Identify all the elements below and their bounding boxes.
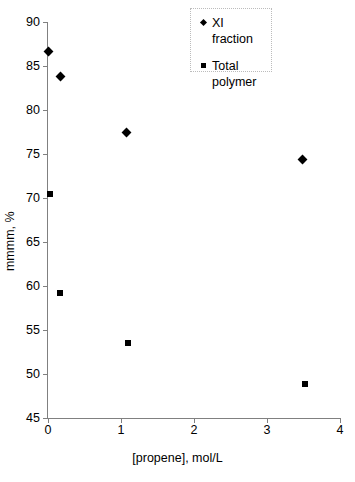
y-axis-tick-label: 85 — [26, 60, 40, 73]
data-point — [47, 191, 53, 197]
x-axis-title: [propene], mol/L — [0, 452, 355, 465]
y-axis-tick-label: 55 — [26, 324, 40, 337]
x-axis-tick-label: 0 — [45, 424, 52, 437]
y-axis-tick — [43, 330, 48, 331]
y-axis-tick-label: 45 — [26, 412, 40, 425]
y-axis-tick-label: 70 — [26, 192, 40, 205]
y-axis-tick — [43, 66, 48, 67]
plot-area: 45505560657075808590 01234 — [48, 22, 340, 418]
y-axis-tick-label: 50 — [26, 368, 40, 381]
y-axis-line — [47, 22, 48, 419]
y-axis-tick — [43, 286, 48, 287]
data-point — [122, 128, 132, 138]
y-axis-tick — [43, 22, 48, 23]
data-point — [125, 340, 131, 346]
x-axis-tick-label: 3 — [264, 424, 271, 437]
y-axis-title: mmmm, % — [2, 0, 18, 482]
x-axis-tick-label: 1 — [118, 424, 125, 437]
legend-entry: Total polymer — [197, 59, 267, 90]
y-axis-tick — [43, 242, 48, 243]
y-axis-tick-label: 80 — [26, 104, 40, 117]
x-axis-tick-label: 4 — [337, 424, 344, 437]
data-point — [43, 47, 53, 57]
diamond-marker-icon — [197, 20, 209, 25]
data-point — [55, 72, 65, 82]
scatter-chart: mmmm, % 45505560657075808590 01234 [prop… — [0, 0, 355, 482]
y-axis-tick — [43, 154, 48, 155]
y-axis-tick-label: 60 — [26, 280, 40, 293]
square-marker-icon — [197, 63, 209, 68]
legend-entry: XI fraction — [197, 16, 267, 47]
y-axis-title-text: mmmm, % — [4, 211, 17, 271]
y-axis-tick — [43, 198, 48, 199]
chart-legend: XI fractionTotal polymer — [190, 8, 272, 72]
legend-label: Total polymer — [209, 59, 267, 90]
data-point — [57, 290, 63, 296]
legend-label: XI fraction — [209, 16, 267, 47]
y-axis-tick — [43, 374, 48, 375]
data-point — [302, 381, 308, 387]
y-axis-tick-label: 90 — [26, 16, 40, 29]
y-axis-tick — [43, 110, 48, 111]
data-point — [298, 154, 308, 164]
x-axis-tick-label: 2 — [191, 424, 198, 437]
y-axis-tick-label: 75 — [26, 148, 40, 161]
y-axis-tick-label: 65 — [26, 236, 40, 249]
